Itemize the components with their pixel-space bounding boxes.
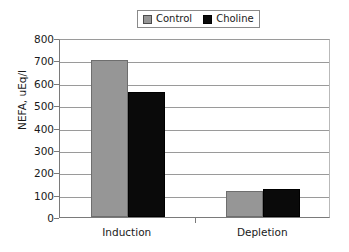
x-tick-label: Induction: [67, 226, 187, 238]
black-swatch-icon: [203, 15, 212, 24]
plot-area: [59, 39, 330, 218]
bar-induction-choline: [128, 92, 165, 217]
y-tick-label: 100: [14, 191, 54, 201]
gray-swatch-icon: [143, 15, 152, 24]
legend-label-control: Control: [156, 14, 192, 24]
y-tick-label: 200: [14, 168, 54, 178]
x-tick-label: Depletion: [202, 226, 322, 238]
y-tick-label: 700: [14, 56, 54, 66]
chart-legend: Control Choline: [137, 10, 260, 28]
x-tick-mark: [195, 218, 196, 223]
y-tick-label: 600: [14, 79, 54, 89]
bar-depletion-control: [226, 191, 263, 217]
y-tick-mark: [54, 218, 59, 219]
y-tick-label: 800: [14, 34, 54, 44]
legend-entry-control: Control: [143, 14, 192, 24]
y-tick-label: 400: [14, 124, 54, 134]
y-tick-label: 300: [14, 146, 54, 156]
bar-induction-control: [91, 60, 128, 217]
y-tick-label: 500: [14, 101, 54, 111]
bar-chart: Control Choline NEFA, uEq/l 800700600500…: [0, 0, 349, 252]
y-tick-label: 0: [14, 213, 54, 223]
legend-entry-choline: Choline: [203, 14, 254, 24]
legend-label-choline: Choline: [216, 14, 254, 24]
bar-depletion-choline: [263, 189, 300, 217]
